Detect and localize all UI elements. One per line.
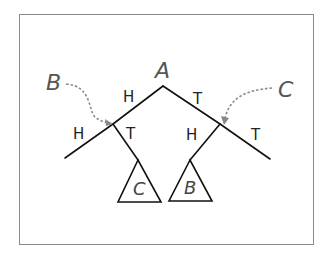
callout-label-right: C [278,77,294,102]
root-label: A [153,58,170,83]
edge-label-root-right: T [192,90,203,108]
edge-right-right [220,124,270,159]
arrowhead-right-icon [221,116,229,125]
subtree-label-right: B [184,177,196,198]
edge-label-root-left: H [123,88,134,106]
edge-label-left-left: H [73,125,84,143]
subtree-label-left: C [133,178,146,199]
edge-root-left [113,86,163,124]
edge-label-right-left: H [186,126,197,144]
callout-arrow-left [66,84,109,123]
edge-label-left-right: T [125,125,136,143]
edge-label-right-right: T [250,126,261,144]
callout-label-left: B [46,70,61,95]
game-tree-diagram: A B C H T H T H T C B [0,0,334,257]
edge-root-right [163,86,220,124]
callout-arrow-right [225,88,272,118]
